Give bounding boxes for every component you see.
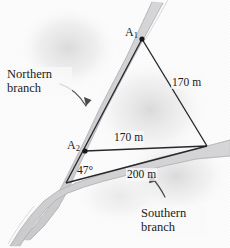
dimension-label-bottom-side: 200 m <box>126 168 157 181</box>
dot-icon-vertex-a2 <box>82 148 87 153</box>
angle-label: 47° <box>76 164 94 177</box>
vertex-label-a1-subscript: 1 <box>134 30 138 40</box>
vertex-label-a2-subscript: 2 <box>76 143 80 153</box>
dot-icon-vertex-a1 <box>139 36 144 41</box>
vertex-label-a2: A2 <box>66 139 81 153</box>
vertex-label-a1-letter: A <box>125 25 134 39</box>
dimension-label-middle-side: 170 m <box>113 131 144 144</box>
northern-branch-label: Northern branch <box>6 67 72 96</box>
dimension-label-right-side: 170 m <box>171 76 202 89</box>
southern-branch-label: Southern branch <box>140 206 206 235</box>
vertex-label-a2-letter: A <box>67 138 76 152</box>
river-survey-figure: Northern branch Southern branch 170 m 17… <box>0 0 230 248</box>
vertex-label-a1: A1 <box>124 26 139 40</box>
